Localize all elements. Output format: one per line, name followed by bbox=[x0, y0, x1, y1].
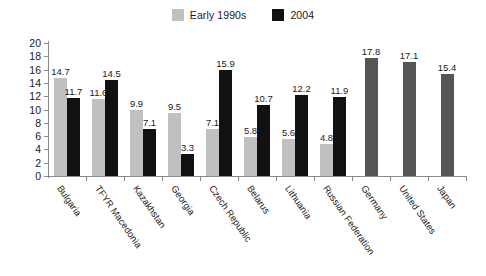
bar-value-label: 4.8 bbox=[320, 132, 333, 143]
bar: 11.7 bbox=[67, 98, 80, 176]
bar: 7.1 bbox=[143, 129, 156, 176]
x-axis-tick bbox=[276, 176, 277, 181]
bar-value-label: 11.7 bbox=[65, 86, 83, 97]
y-axis-tick-label: 20 bbox=[29, 37, 41, 49]
y-axis-tick-label: 0 bbox=[35, 170, 41, 182]
legend-label-2004: 2004 bbox=[290, 9, 314, 21]
x-axis-tick bbox=[200, 176, 201, 181]
x-axis-tick bbox=[238, 176, 239, 181]
bar-group: 5.612.2 bbox=[276, 43, 314, 176]
x-axis-category-label: Georgia bbox=[169, 183, 197, 217]
x-axis-tick bbox=[466, 176, 467, 181]
x-axis-category-label: Germany bbox=[359, 183, 390, 221]
y-axis-tick-label: 14 bbox=[29, 77, 41, 89]
bar: 14.5 bbox=[105, 80, 118, 176]
bar-group: 5.810.7 bbox=[238, 43, 276, 176]
bar: 10.7 bbox=[257, 105, 270, 176]
bar-group: 17.1 bbox=[390, 43, 428, 176]
bar-value-label: 9.9 bbox=[130, 98, 143, 109]
x-axis-tick bbox=[162, 176, 163, 181]
bar: 11.6 bbox=[92, 99, 105, 176]
x-axis-tick bbox=[314, 176, 315, 181]
bar-value-label: 15.4 bbox=[438, 62, 457, 73]
bar-value-label: 10.7 bbox=[254, 93, 273, 104]
bar: 17.8 bbox=[365, 58, 378, 176]
bar-value-label: 17.1 bbox=[400, 50, 419, 61]
bar: 9.9 bbox=[130, 110, 143, 176]
bar-group: 11.614.5 bbox=[86, 43, 124, 176]
bar: 5.6 bbox=[282, 139, 295, 176]
bar-group: 14.711.7 bbox=[48, 43, 86, 176]
legend-item-early-1990s: Early 1990s bbox=[172, 9, 247, 21]
bar-group: 9.97.1 bbox=[124, 43, 162, 176]
legend-swatch-early-1990s bbox=[172, 9, 184, 21]
bar: 3.3 bbox=[181, 154, 194, 176]
y-axis-tick-label: 18 bbox=[29, 50, 41, 62]
legend-swatch-2004 bbox=[272, 9, 284, 21]
bar-value-label: 7.1 bbox=[143, 117, 156, 128]
bar-value-label: 5.8 bbox=[244, 125, 257, 136]
y-axis-tick-label: 10 bbox=[29, 104, 41, 116]
x-axis-tick bbox=[86, 176, 87, 181]
chart-legend: Early 1990s 2004 bbox=[0, 9, 486, 21]
bar-group: 17.8 bbox=[352, 43, 390, 176]
legend-label-early-1990s: Early 1990s bbox=[190, 9, 247, 21]
bar: 12.2 bbox=[295, 95, 308, 176]
y-axis-tick-label: 6 bbox=[35, 130, 41, 142]
bar-group: 7.115.9 bbox=[200, 43, 238, 176]
bar-group: 15.4 bbox=[428, 43, 466, 176]
bar-chart: Early 1990s 2004 20181614121086420 14.71… bbox=[0, 0, 486, 276]
x-axis-category-label: Lithuania bbox=[283, 183, 314, 221]
bar-value-label: 12.2 bbox=[292, 83, 311, 94]
bar-value-label: 3.3 bbox=[181, 142, 194, 153]
bar: 15.9 bbox=[219, 70, 232, 176]
bar: 11.9 bbox=[333, 97, 346, 176]
bar-value-label: 14.5 bbox=[102, 68, 121, 79]
x-axis-tick bbox=[352, 176, 353, 181]
x-axis-category-label: Belarus bbox=[245, 183, 272, 216]
bar-value-label: 17.8 bbox=[362, 46, 381, 57]
x-axis-tick bbox=[124, 176, 125, 181]
x-axis-category-label: Bulgaria bbox=[55, 183, 84, 218]
y-axis-tick-label: 4 bbox=[35, 143, 41, 155]
bar-value-label: 15.9 bbox=[216, 58, 235, 69]
bar: 9.5 bbox=[168, 113, 181, 176]
x-axis-category-label: United States bbox=[397, 183, 439, 236]
x-axis-category-label: Japan bbox=[435, 183, 459, 211]
y-axis-tick-label: 16 bbox=[29, 64, 41, 76]
y-axis-tick-label: 2 bbox=[35, 157, 41, 169]
bar-value-label: 7.1 bbox=[206, 117, 219, 128]
bar: 4.8 bbox=[320, 144, 333, 176]
x-axis-line bbox=[48, 176, 466, 177]
bar-value-label: 5.6 bbox=[282, 127, 295, 138]
y-axis-tick-label: 8 bbox=[35, 117, 41, 129]
bar: 17.1 bbox=[403, 62, 416, 176]
bar-value-label: 9.5 bbox=[168, 101, 181, 112]
x-axis-tick bbox=[390, 176, 391, 181]
y-axis-tick bbox=[44, 176, 48, 177]
bar: 15.4 bbox=[441, 74, 454, 176]
bar: 5.8 bbox=[244, 137, 257, 176]
bar-value-label: 14.7 bbox=[51, 66, 70, 77]
x-axis-tick bbox=[428, 176, 429, 181]
plot-area: 20181614121086420 14.711.711.614.59.97.1… bbox=[48, 43, 466, 176]
legend-item-2004: 2004 bbox=[272, 9, 314, 21]
bar: 7.1 bbox=[206, 129, 219, 176]
x-axis-category-label: Kazakhstan bbox=[131, 183, 168, 230]
bar-value-label: 11.9 bbox=[331, 85, 349, 96]
bar-group: 4.811.9 bbox=[314, 43, 352, 176]
y-axis-tick-label: 12 bbox=[29, 90, 41, 102]
bar-group: 9.53.3 bbox=[162, 43, 200, 176]
